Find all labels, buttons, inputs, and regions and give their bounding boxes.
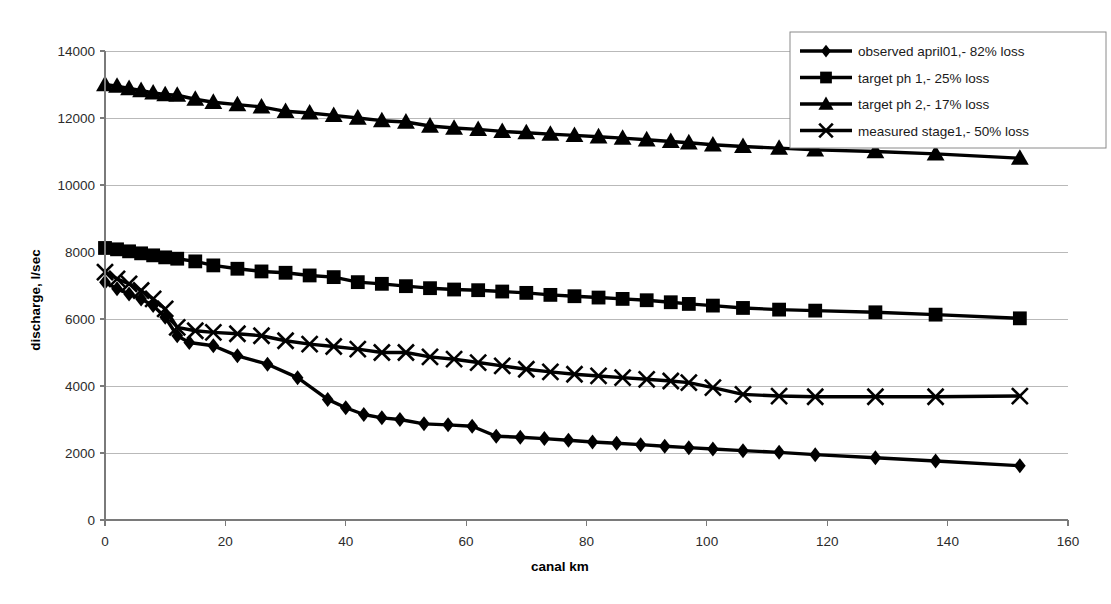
legend: observed april01,- 82% losstarget ph 1,-… bbox=[790, 32, 1106, 148]
marker-square bbox=[706, 299, 720, 313]
y-tick-label: 4000 bbox=[65, 379, 95, 394]
marker-square bbox=[869, 305, 883, 319]
y-tick-label: 0 bbox=[87, 513, 95, 528]
marker-square bbox=[471, 283, 485, 297]
marker-square bbox=[495, 285, 509, 299]
marker-square bbox=[170, 252, 184, 266]
marker-square bbox=[399, 279, 413, 293]
marker-square bbox=[279, 266, 293, 280]
x-tick-label: 60 bbox=[459, 534, 474, 549]
legend-item-label[interactable]: observed april01,- 82% loss bbox=[858, 44, 1025, 59]
chart-container: 02000400060008000100001200014000 0204060… bbox=[0, 0, 1111, 604]
marker-square bbox=[327, 270, 341, 284]
legend-item-label[interactable]: target ph 1,- 25% loss bbox=[858, 71, 990, 86]
marker-square bbox=[1013, 311, 1027, 325]
x-tick-label: 40 bbox=[338, 534, 353, 549]
marker-square bbox=[568, 289, 582, 303]
marker-square bbox=[543, 288, 557, 302]
marker-square bbox=[351, 275, 365, 289]
x-tick-label: 0 bbox=[101, 534, 109, 549]
y-tick-label: 12000 bbox=[57, 111, 95, 126]
y-tick-label: 10000 bbox=[57, 178, 95, 193]
marker-square bbox=[303, 269, 317, 283]
marker-square bbox=[134, 246, 148, 260]
marker-square bbox=[929, 308, 943, 322]
marker-square bbox=[188, 254, 202, 268]
x-tick-label: 100 bbox=[696, 534, 719, 549]
x-tick-label: 160 bbox=[1057, 534, 1080, 549]
marker-square bbox=[447, 283, 461, 297]
y-tick-label: 14000 bbox=[57, 44, 95, 59]
legend-item-label[interactable]: measured stage1,- 50% loss bbox=[858, 124, 1029, 139]
marker-square bbox=[772, 303, 786, 317]
marker-square bbox=[519, 286, 533, 300]
x-axis-title: canal km bbox=[531, 559, 589, 574]
x-tick-label: 140 bbox=[936, 534, 959, 549]
x-tick-label: 120 bbox=[816, 534, 839, 549]
marker-square bbox=[664, 295, 678, 309]
y-tick-label: 2000 bbox=[65, 446, 95, 461]
marker-square bbox=[640, 293, 654, 307]
marker-square bbox=[110, 242, 124, 256]
marker-square bbox=[231, 262, 245, 276]
y-tick-label: 6000 bbox=[65, 312, 95, 327]
marker-square bbox=[808, 304, 822, 318]
marker-square bbox=[122, 244, 136, 258]
x-tick-label: 20 bbox=[218, 534, 233, 549]
x-tick-label: 80 bbox=[579, 534, 594, 549]
marker-square bbox=[146, 248, 160, 262]
marker-square bbox=[616, 292, 630, 306]
marker-square bbox=[206, 259, 220, 273]
marker-square bbox=[158, 250, 172, 264]
discharge-vs-canal-km-chart: 02000400060008000100001200014000 0204060… bbox=[0, 0, 1111, 604]
marker-square bbox=[820, 72, 832, 84]
marker-square bbox=[592, 291, 606, 305]
marker-square bbox=[255, 265, 269, 279]
legend-item-label[interactable]: target ph 2,- 17% loss bbox=[858, 97, 990, 112]
marker-square bbox=[423, 281, 437, 295]
marker-square bbox=[375, 277, 389, 291]
marker-square bbox=[736, 301, 750, 315]
marker-square bbox=[682, 297, 696, 311]
y-tick-label: 8000 bbox=[65, 245, 95, 260]
y-axis-title: discharge, l/sec bbox=[28, 249, 43, 351]
